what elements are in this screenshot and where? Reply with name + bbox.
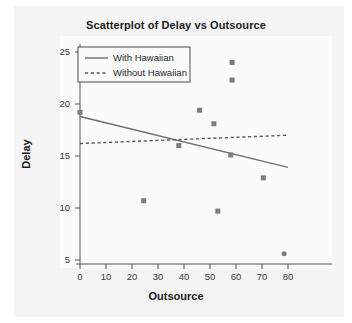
x-tick-label: 50 (205, 271, 216, 282)
data-point (230, 60, 235, 65)
data-points (78, 60, 287, 256)
data-point (141, 198, 146, 203)
y-tick-label: 5 (65, 254, 70, 265)
data-point (211, 121, 216, 126)
y-tick-label: 20 (59, 98, 70, 109)
x-tick-label: 80 (283, 271, 294, 282)
x-tick-label: 20 (127, 271, 138, 282)
x-axis-ticks: 01020304050607080 (77, 264, 293, 282)
x-tick-label: 70 (257, 271, 268, 282)
data-point (78, 110, 83, 115)
y-tick-label: 15 (59, 150, 70, 161)
data-point (176, 143, 181, 148)
legend-label: With Hawaiian (113, 52, 174, 63)
y-tick-label: 25 (59, 46, 70, 57)
data-point (230, 78, 235, 83)
y-axis-ticks: 510152025 (59, 46, 80, 265)
x-tick-label: 40 (179, 271, 190, 282)
x-tick-label: 10 (101, 271, 112, 282)
scatterplot-svg: 510152025 01020304050607080 With Hawaiia… (0, 0, 352, 323)
data-point (282, 251, 287, 256)
data-point (197, 108, 202, 113)
chart-page: Scatterplot of Delay vs Outsource Outsou… (0, 0, 352, 323)
data-point (215, 209, 220, 214)
data-point (261, 175, 266, 180)
legend: With HawaiianWithout Hawaiian (78, 47, 190, 82)
y-tick-label: 10 (59, 202, 70, 213)
x-tick-label: 30 (153, 271, 164, 282)
x-tick-label: 60 (231, 271, 242, 282)
regression-lines (80, 116, 288, 167)
data-point (228, 152, 233, 157)
x-tick-label: 0 (77, 271, 82, 282)
legend-label: Without Hawaiian (113, 67, 187, 78)
